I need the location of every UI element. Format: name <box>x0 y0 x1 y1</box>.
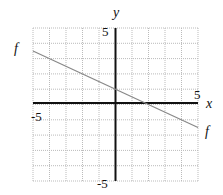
plot-area: y x 5 -5 -5 5 f f <box>0 0 223 195</box>
y-max-tick: 5 <box>102 24 109 39</box>
graph: y x 5 -5 -5 5 f f <box>0 0 223 195</box>
x-max-tick: 5 <box>194 87 201 102</box>
f-label-right: f <box>205 124 211 139</box>
y-axis-label: y <box>111 5 120 20</box>
y-min-tick: -5 <box>97 176 108 191</box>
x-axis-label: x <box>205 96 213 111</box>
f-label-left: f <box>14 41 20 56</box>
x-min-tick: -5 <box>31 109 42 124</box>
